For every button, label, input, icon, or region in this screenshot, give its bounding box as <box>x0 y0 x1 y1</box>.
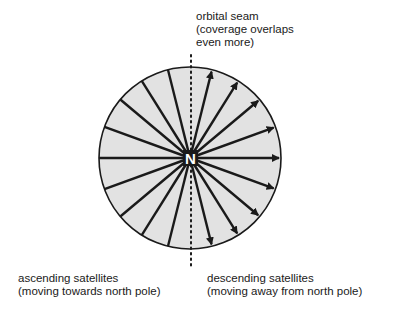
descending-satellites-label: descending satellites (moving away from … <box>207 272 362 298</box>
descending-label-line2: (moving away from north pole) <box>207 285 362 298</box>
polar-orbit-diagram: N <box>0 0 394 317</box>
ascending-label-line1: ascending satellites <box>18 272 161 285</box>
north-pole-label: N <box>185 150 196 167</box>
descending-label-line1: descending satellites <box>207 272 362 285</box>
ascending-satellites-label: ascending satellites (moving towards nor… <box>18 272 161 298</box>
ascending-label-line2: (moving towards north pole) <box>18 285 161 298</box>
